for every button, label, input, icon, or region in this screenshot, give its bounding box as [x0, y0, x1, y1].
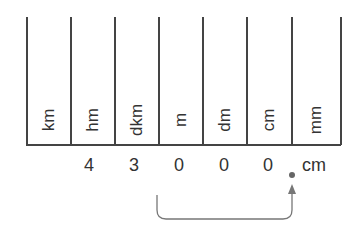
shift-arrow-icon	[0, 0, 358, 238]
